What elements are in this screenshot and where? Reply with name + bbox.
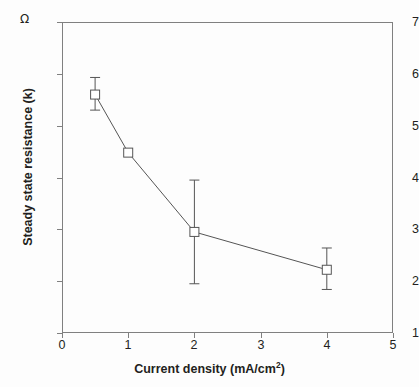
x-tick-label: 3 xyxy=(246,339,276,352)
y-tick-label: 6 xyxy=(373,68,419,81)
y-tick-mark xyxy=(57,229,62,230)
y-tick-label: 2 xyxy=(373,275,419,288)
x-tick-label: 0 xyxy=(47,339,77,352)
y-tick-mark xyxy=(57,178,62,179)
y-tick-mark xyxy=(57,22,62,23)
x-axis-title-tail: ) xyxy=(281,362,285,376)
y-tick-mark xyxy=(57,281,62,282)
y-tick-label: 4 xyxy=(373,172,419,185)
chart-figure: Ω 1 2 3 4 5 6 7 0 1 2 3 4 5 Steady state… xyxy=(0,0,419,387)
x-tick-label: 2 xyxy=(179,339,209,352)
y-axis-title: Steady state resistance (k) xyxy=(21,57,35,277)
y-tick-label: 7 xyxy=(373,16,419,29)
y-axis-unit-symbol: Ω xyxy=(20,13,29,25)
y-tick-label: 1 xyxy=(373,327,419,340)
y-tick-label: 3 xyxy=(373,223,419,236)
x-tick-label: 5 xyxy=(378,339,408,352)
plot-area-frame xyxy=(62,22,393,333)
x-axis-title-main: Current density (mA/cm xyxy=(134,362,276,376)
x-axis-title: Current density (mA/cm2) xyxy=(0,360,419,376)
y-axis-title-text: Steady state resistance (k) xyxy=(21,88,35,246)
y-tick-label: 5 xyxy=(373,120,419,133)
x-tick-label: 4 xyxy=(312,339,342,352)
x-tick-label: 1 xyxy=(113,339,143,352)
y-tick-mark xyxy=(57,74,62,75)
y-tick-mark xyxy=(57,126,62,127)
